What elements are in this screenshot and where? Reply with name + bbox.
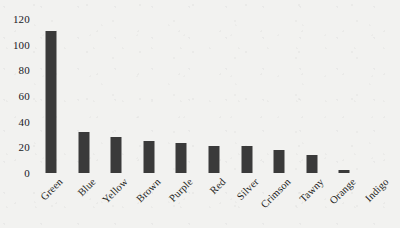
bar [46, 31, 57, 173]
x-axis-tick-label: Indigo [363, 176, 391, 204]
bar [339, 170, 350, 173]
y-axis-tick-label: 80 [19, 64, 30, 76]
y-axis-tick-label: 40 [19, 116, 30, 128]
bar [111, 137, 122, 173]
bar [306, 155, 317, 173]
x-axis-tick-label: Brown [134, 176, 163, 205]
y-axis-tick-label: 0 [24, 167, 30, 179]
x-axis-tick-label: Blue [75, 176, 97, 198]
y-axis-tick-label: 120 [13, 13, 30, 25]
x-axis-tick-label: Tawny [297, 176, 325, 204]
x-axis-tick-label: Red [208, 176, 228, 196]
y-axis: 020406080100120 [0, 19, 30, 173]
x-axis-tick-label: Orange [328, 176, 358, 206]
x-axis-tick-label: Purple [167, 176, 195, 204]
y-axis-tick-label: 100 [13, 39, 30, 51]
bar [274, 150, 285, 173]
bar-chart-figure: 020406080100120 GreenBlueYellowBrownPurp… [0, 0, 400, 228]
y-axis-tick-label: 20 [19, 141, 30, 153]
bar [78, 132, 89, 173]
x-axis-tick-label: Crimson [259, 176, 293, 210]
x-axis-tick-label: Green [39, 176, 65, 202]
bar [176, 143, 187, 173]
y-axis-tick-label: 60 [19, 90, 30, 102]
bar [143, 141, 154, 173]
bar [209, 146, 220, 173]
plot-area [35, 19, 393, 173]
x-axis-tick-label: Yellow [101, 176, 131, 206]
bar [241, 146, 252, 173]
x-axis-tick-label: Silver [234, 176, 260, 202]
